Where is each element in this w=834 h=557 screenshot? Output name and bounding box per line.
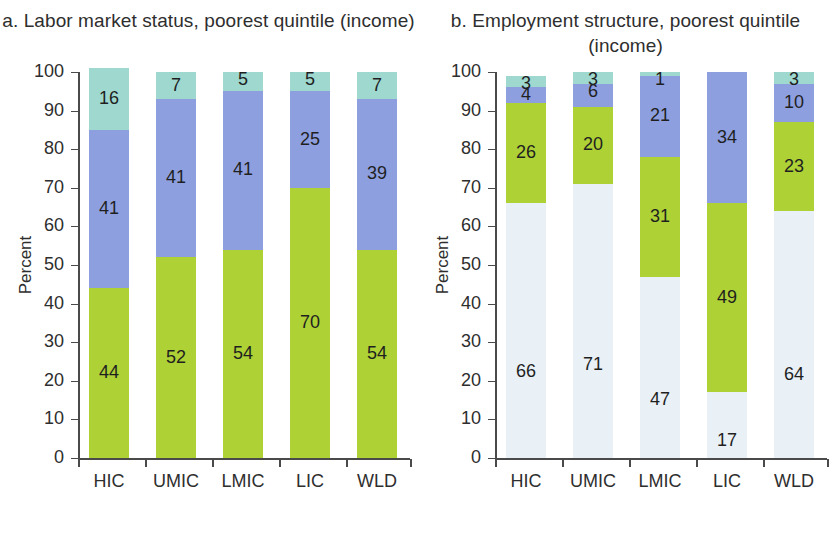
x-tick-label: LMIC bbox=[622, 471, 698, 492]
bar-segment[interactable] bbox=[640, 277, 680, 458]
stacked-bar[interactable] bbox=[89, 72, 129, 458]
y-tick-label: 20 bbox=[16, 370, 64, 391]
bar-segment[interactable] bbox=[774, 211, 814, 458]
y-tick-mark bbox=[71, 188, 78, 189]
y-tick-label: 30 bbox=[16, 331, 64, 352]
x-tick-mark bbox=[495, 459, 497, 467]
y-tick-mark bbox=[71, 265, 78, 266]
x-tick-mark bbox=[279, 459, 281, 467]
y-tick-label: 70 bbox=[16, 177, 64, 198]
bar-value-label: 66 bbox=[506, 361, 546, 382]
x-tick-mark bbox=[827, 459, 829, 467]
y-tick-mark bbox=[488, 72, 495, 73]
y-tick-label: 100 bbox=[433, 61, 481, 82]
x-tick-label: UMIC bbox=[555, 471, 631, 492]
x-tick-label: WLD bbox=[756, 471, 832, 492]
stacked-bar[interactable] bbox=[223, 72, 263, 458]
y-tick-mark bbox=[488, 265, 495, 266]
bar-value-label: 49 bbox=[707, 287, 747, 308]
bar-value-label: 3 bbox=[774, 69, 814, 90]
x-axis-line bbox=[78, 458, 410, 460]
y-axis-line bbox=[78, 72, 80, 459]
bar-value-label: 26 bbox=[506, 142, 546, 163]
bar-value-label: 39 bbox=[357, 163, 397, 184]
y-tick-mark bbox=[71, 342, 78, 343]
x-tick-label: LMIC bbox=[205, 471, 281, 492]
bar-value-label: 1 bbox=[640, 69, 680, 90]
y-tick-mark bbox=[71, 72, 78, 73]
y-tick-mark bbox=[488, 111, 495, 112]
y-tick-mark bbox=[488, 304, 495, 305]
x-tick-label: LIC bbox=[272, 471, 348, 492]
x-tick-mark bbox=[763, 459, 765, 467]
bar-value-label: 44 bbox=[89, 362, 129, 383]
x-tick-label: LIC bbox=[689, 471, 765, 492]
x-tick-label: UMIC bbox=[138, 471, 214, 492]
x-tick-mark bbox=[696, 459, 698, 467]
y-tick-label: 0 bbox=[16, 447, 64, 468]
bar-value-label: 23 bbox=[774, 156, 814, 177]
bar-value-label: 20 bbox=[573, 134, 613, 155]
bar-value-label: 41 bbox=[156, 167, 196, 188]
x-axis-line bbox=[495, 458, 827, 460]
y-tick-label: 90 bbox=[16, 100, 64, 121]
y-tick-mark bbox=[488, 188, 495, 189]
x-tick-mark bbox=[346, 459, 348, 467]
stacked-bar[interactable] bbox=[156, 72, 196, 458]
figure-container: a. Labor market status, poorest quintile… bbox=[0, 0, 834, 557]
bar-value-label: 25 bbox=[290, 129, 330, 150]
x-tick-label: HIC bbox=[71, 471, 147, 492]
panel-a: a. Labor market status, poorest quintile… bbox=[0, 0, 417, 557]
bar-value-label: 10 bbox=[774, 92, 814, 113]
bar-value-label: 5 bbox=[223, 69, 263, 90]
bar-value-label: 70 bbox=[290, 312, 330, 333]
y-tick-label: 70 bbox=[433, 177, 481, 198]
y-tick-mark bbox=[488, 149, 495, 150]
bar-value-label: 54 bbox=[223, 343, 263, 364]
y-tick-mark bbox=[488, 458, 495, 459]
y-tick-label: 80 bbox=[433, 138, 481, 159]
x-tick-mark bbox=[629, 459, 631, 467]
bar-segment[interactable] bbox=[573, 184, 613, 458]
x-tick-mark bbox=[145, 459, 147, 467]
x-tick-mark bbox=[410, 459, 412, 467]
bar-value-label: 21 bbox=[640, 105, 680, 126]
x-tick-mark bbox=[212, 459, 214, 467]
bar-value-label: 5 bbox=[290, 69, 330, 90]
y-tick-label: 80 bbox=[16, 138, 64, 159]
bar-value-label: 3 bbox=[506, 73, 546, 94]
bar-value-label: 34 bbox=[707, 127, 747, 148]
y-axis-title: Percent bbox=[16, 215, 36, 315]
bar-value-label: 47 bbox=[640, 389, 680, 410]
panel-a-plot-area: 1009080706050403020100Percent444116HIC52… bbox=[0, 0, 417, 480]
y-tick-label: 10 bbox=[433, 408, 481, 429]
y-tick-mark bbox=[71, 304, 78, 305]
stacked-bar[interactable] bbox=[506, 72, 546, 458]
y-tick-mark bbox=[71, 381, 78, 382]
y-tick-label: 90 bbox=[433, 100, 481, 121]
stacked-bar[interactable] bbox=[774, 72, 814, 458]
panel-b-plot-area: 1009080706050403020100Percent662643HIC71… bbox=[417, 0, 834, 480]
y-tick-label: 30 bbox=[433, 331, 481, 352]
y-tick-mark bbox=[488, 381, 495, 382]
stacked-bar[interactable] bbox=[357, 72, 397, 458]
y-tick-mark bbox=[71, 111, 78, 112]
bar-value-label: 3 bbox=[573, 69, 613, 90]
x-tick-label: WLD bbox=[339, 471, 415, 492]
y-tick-label: 20 bbox=[433, 370, 481, 391]
stacked-bar[interactable] bbox=[573, 72, 613, 458]
x-tick-label: HIC bbox=[488, 471, 564, 492]
y-tick-mark bbox=[71, 458, 78, 459]
y-tick-mark bbox=[71, 226, 78, 227]
bar-value-label: 41 bbox=[89, 198, 129, 219]
bar-segment[interactable] bbox=[506, 203, 546, 458]
y-tick-mark bbox=[488, 342, 495, 343]
panel-b: b. Employment structure, poorest quintil… bbox=[417, 0, 834, 557]
bar-value-label: 41 bbox=[223, 159, 263, 180]
y-tick-label: 0 bbox=[433, 447, 481, 468]
bar-value-label: 16 bbox=[89, 88, 129, 109]
bar-value-label: 64 bbox=[774, 364, 814, 385]
y-tick-mark bbox=[71, 419, 78, 420]
y-tick-mark bbox=[71, 149, 78, 150]
bar-value-label: 17 bbox=[707, 430, 747, 451]
